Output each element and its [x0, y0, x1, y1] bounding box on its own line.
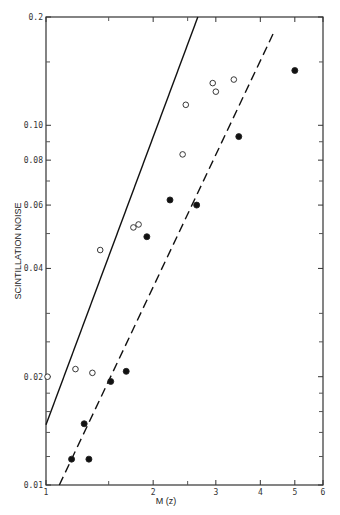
filled-circle-point — [123, 368, 129, 374]
open-circle-point — [213, 89, 219, 95]
y-tick-label: 0.06 — [24, 201, 43, 210]
open-circle-point — [45, 374, 51, 380]
y-tick-label: 0.10 — [24, 121, 43, 130]
x-tick-label: 5 — [292, 488, 297, 497]
plot-border — [46, 17, 323, 485]
x-tick-label: 3 — [213, 488, 218, 497]
y-axis-label: SCINTILLATION NOISE — [13, 203, 23, 300]
filled-circle-point — [108, 378, 114, 384]
open-circle-point — [180, 152, 186, 158]
y-tick-label: 0.04 — [24, 264, 43, 273]
filled-circle-point — [144, 234, 150, 240]
open-circle-point — [131, 225, 137, 231]
fit-lines — [46, 17, 273, 485]
filled-circle-point — [236, 134, 242, 140]
open-circle-point — [183, 102, 189, 108]
x-tick-label: 1 — [44, 488, 49, 497]
plot-frame — [46, 17, 323, 485]
y-tick-label: 0.02 — [24, 373, 43, 382]
y-tick-label: 0.01 — [24, 481, 43, 490]
x-axis-label: M (z) — [156, 496, 177, 506]
solid-fit-line — [46, 17, 198, 425]
open-circle-point — [90, 370, 96, 376]
open-circle-point — [136, 222, 142, 228]
x-tick-label: 4 — [258, 488, 263, 497]
x-tick-label: 6 — [321, 488, 326, 497]
open-circle-point — [97, 247, 103, 253]
filled-circle-point — [81, 421, 87, 427]
y-tick-label: 0.2 — [29, 13, 44, 22]
filled-circle-point — [167, 197, 173, 203]
filled-circle-point — [292, 68, 298, 74]
scintillation-noise-chart: 0.010.020.040.060.080.100.2 123456 M (z)… — [0, 0, 340, 515]
data-points — [45, 68, 298, 463]
open-circle-point — [73, 366, 79, 372]
filled-circle-point — [69, 456, 75, 462]
open-circle-point — [231, 77, 237, 83]
filled-circle-point — [86, 456, 92, 462]
filled-circle-point — [194, 202, 200, 208]
y-tick-label: 0.08 — [24, 156, 43, 165]
open-circle-point — [210, 80, 216, 86]
